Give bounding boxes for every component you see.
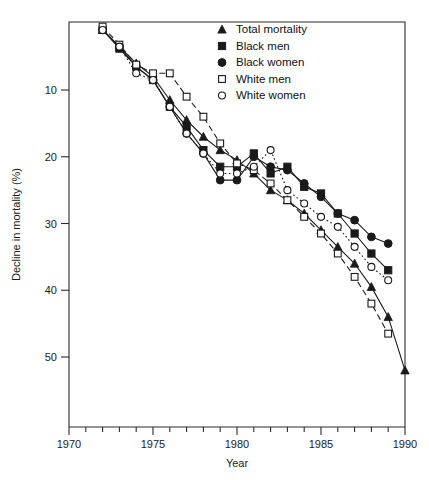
data-point-open-circle [150, 76, 157, 83]
data-point-open-square [267, 180, 274, 187]
x-tick-label: 1990 [393, 438, 417, 450]
data-point-open-circle [250, 163, 257, 170]
data-point-open-square [301, 213, 308, 220]
legend-label: White men [236, 73, 291, 85]
y-axis-label: Decline in mortality (%) [10, 168, 22, 281]
data-point-open-square [351, 274, 358, 281]
data-point-open-square [200, 113, 207, 120]
data-point-open-circle [351, 243, 358, 250]
data-point-open-square [133, 61, 140, 68]
data-point-filled-circle [284, 166, 292, 174]
data-point-filled-square [217, 163, 224, 170]
y-tick-label: 20 [45, 151, 57, 163]
legend-label: Total mortality [236, 23, 307, 35]
legend-marker-open-circle [219, 92, 226, 99]
y-tick-label: 10 [45, 84, 57, 96]
data-point-filled-circle [267, 163, 275, 171]
data-point-open-square [150, 70, 157, 77]
data-point-open-circle [318, 213, 325, 220]
data-point-open-square [385, 330, 392, 337]
data-point-open-circle [284, 187, 291, 194]
mortality-decline-line-chart: 19701975198019851990Year1020304050Declin… [0, 0, 429, 480]
data-point-open-circle [166, 103, 173, 110]
legend-marker-filled-triangle [218, 25, 226, 33]
legend-label: White women [236, 89, 306, 101]
data-point-open-circle [301, 200, 308, 207]
x-tick-label: 1975 [141, 438, 165, 450]
data-point-open-circle [234, 170, 241, 177]
data-point-open-circle [368, 263, 375, 270]
data-point-open-circle [99, 26, 106, 33]
legend-marker-filled-circle [218, 59, 226, 67]
series-white-men [99, 23, 391, 337]
data-point-open-circle [267, 147, 274, 154]
x-tick-label: 1985 [309, 438, 333, 450]
data-point-open-square [368, 300, 375, 307]
chart-legend: Total mortalityBlack menBlack womenWhite… [218, 23, 307, 101]
data-point-open-square [183, 93, 190, 100]
data-point-filled-square [385, 267, 392, 274]
data-point-filled-circle [250, 153, 258, 161]
data-point-filled-square [351, 230, 358, 237]
data-point-filled-square [368, 250, 375, 257]
data-point-open-circle [133, 70, 140, 77]
y-tick-label: 40 [45, 284, 57, 296]
data-point-open-square [166, 70, 173, 77]
y-tick-label: 50 [45, 351, 57, 363]
legend-marker-open-square [219, 76, 226, 83]
data-point-open-circle [183, 130, 190, 137]
data-point-filled-circle [334, 210, 342, 218]
data-point-open-circle [217, 170, 224, 177]
data-point-open-square [217, 140, 224, 147]
legend-label: Black women [236, 56, 304, 68]
x-tick-label: 1980 [225, 438, 249, 450]
data-point-filled-circle [300, 180, 308, 188]
legend-label: Black men [236, 40, 290, 52]
data-point-open-circle [334, 223, 341, 230]
data-point-open-square [318, 230, 325, 237]
data-point-open-square [234, 160, 241, 167]
y-tick-label: 30 [45, 218, 57, 230]
x-tick-label: 1970 [57, 438, 81, 450]
data-point-filled-triangle [401, 366, 409, 374]
data-point-filled-circle [384, 240, 392, 248]
data-point-filled-triangle [384, 313, 392, 321]
legend-marker-filled-square [218, 42, 225, 49]
x-axis-label: Year [226, 457, 249, 469]
data-point-filled-circle [317, 193, 325, 201]
data-point-open-circle [200, 150, 207, 157]
data-point-open-square [284, 197, 291, 204]
chart-figure: 19701975198019851990Year1020304050Declin… [0, 0, 429, 480]
data-point-open-circle [116, 43, 123, 50]
data-point-open-square [334, 250, 341, 257]
data-point-filled-circle [368, 233, 376, 241]
data-point-filled-circle [351, 216, 359, 224]
data-point-open-circle [385, 277, 392, 284]
